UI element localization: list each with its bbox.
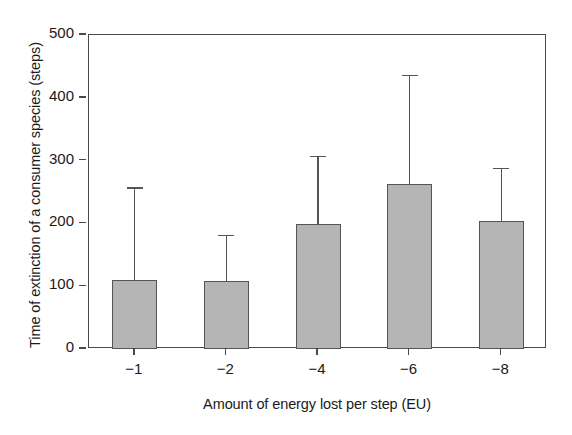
bar (387, 184, 432, 349)
y-axis-tick-label: 200 (49, 212, 74, 229)
y-axis-tick-mark (79, 285, 86, 286)
error-bar-cap (310, 156, 326, 158)
y-axis-tick-mark (79, 347, 86, 348)
bar-chart-figure: Time of extinction of a consumer species… (0, 0, 572, 435)
bar (204, 281, 249, 349)
y-axis-tick-label: 100 (49, 275, 74, 292)
y-axis-tick-mark (79, 159, 86, 160)
error-bar-cap (402, 75, 418, 77)
x-axis-tick-label: −4 (293, 360, 341, 377)
bar (112, 280, 157, 349)
error-bar-cap (127, 187, 143, 189)
y-axis-tick-label: 300 (49, 150, 74, 167)
error-bar-stem (134, 187, 135, 280)
x-axis-tick-mark (316, 348, 317, 355)
x-axis-tick-mark (133, 348, 134, 355)
y-axis-tick-label: 500 (49, 24, 74, 41)
x-axis-tick-mark (500, 348, 501, 355)
bar (479, 221, 524, 349)
error-bar-cap (218, 235, 234, 237)
x-axis-tick-mark (225, 348, 226, 355)
y-axis-title: Time of extinction of a consumer species… (22, 15, 48, 375)
x-axis-tick-label: −1 (110, 360, 158, 377)
y-axis-tick-mark (79, 222, 86, 223)
y-axis-tick-label: 400 (49, 87, 74, 104)
error-bar-stem (317, 156, 318, 224)
error-bar-stem (226, 235, 227, 281)
x-axis-tick-label: −8 (476, 360, 524, 377)
bar (296, 224, 341, 349)
x-axis-tick-label: −2 (201, 360, 249, 377)
x-axis-tick-mark (408, 348, 409, 355)
y-axis-tick-mark (79, 33, 86, 34)
y-axis-tick-label: 0 (66, 338, 74, 355)
x-axis-title: Amount of energy lost per step (EU) (88, 396, 546, 412)
x-axis-tick-label: −6 (385, 360, 433, 377)
error-bar-cap (493, 168, 509, 170)
y-axis-tick-mark (79, 96, 86, 97)
plot-area (88, 34, 546, 348)
error-bar-stem (501, 168, 502, 221)
error-bar-stem (409, 75, 410, 184)
